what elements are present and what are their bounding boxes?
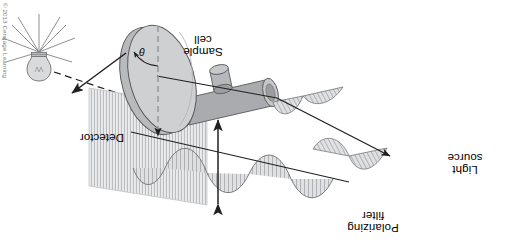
- label-polarizing-filter-line1: Polarizing: [342, 222, 404, 235]
- polarimeter-figure: © 2013 Cengage Learning: [0, 0, 509, 248]
- figure-rotated-content: Detector Sample cell Polarizing filter L…: [0, 0, 509, 248]
- label-sample-cell-line2: cell: [179, 34, 227, 47]
- label-light-source-line1: Light: [441, 164, 489, 177]
- label-detector: Detector: [80, 132, 124, 145]
- light-bulb-icon: [3, 14, 75, 81]
- label-polarizing-filter-line2: filter: [342, 210, 404, 223]
- diagram-canvas: [0, 0, 509, 248]
- label-angle-theta: θ: [139, 46, 145, 59]
- label-sample-cell-line1: Sample: [179, 46, 227, 59]
- label-light-source-line2: source: [441, 152, 489, 165]
